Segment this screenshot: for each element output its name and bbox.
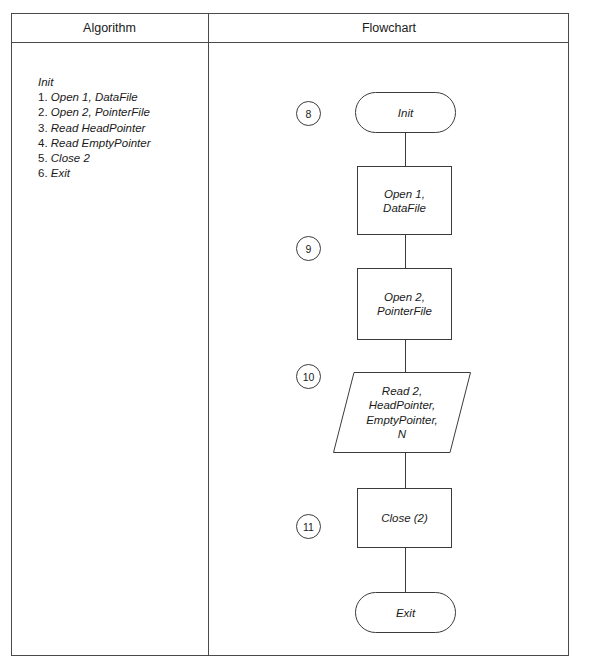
algorithm-step-number: 1. xyxy=(38,91,51,103)
step-number-11: 11 xyxy=(296,514,321,539)
node-read-line1: Read 2, xyxy=(382,385,422,397)
column-header-flowchart: Flowchart xyxy=(209,19,569,37)
node-close-label: Close (2) xyxy=(381,511,428,525)
algorithm-step-3: 3. Read HeadPointer xyxy=(38,121,203,136)
algorithm-step-4: 4. Read EmptyPointer xyxy=(38,136,203,151)
algorithm-step-text: Open 1, DataFile xyxy=(51,91,138,103)
node-read-label: Read 2, HeadPointer, EmptyPointer, N xyxy=(333,372,471,453)
connector-close-to-exit xyxy=(405,548,406,592)
algorithm-step-number: 5. xyxy=(38,152,51,164)
node-open1: Open 1, DataFile xyxy=(357,166,452,235)
algorithm-step-text: Exit xyxy=(51,167,70,179)
step-number-10: 10 xyxy=(296,364,321,389)
node-close: Close (2) xyxy=(357,488,452,548)
connector-read-to-close xyxy=(405,452,406,488)
algorithm-listing: Init 1. Open 1, DataFile 2. Open 2, Poin… xyxy=(38,75,203,181)
algorithm-step-5: 5. Close 2 xyxy=(38,151,203,166)
node-init: Init xyxy=(355,92,456,133)
algorithm-step-text: Read HeadPointer xyxy=(51,122,146,134)
flowchart-figure: Algorithm Flowchart Init 1. Open 1, Data… xyxy=(0,0,590,670)
algorithm-step-number: 3. xyxy=(38,122,51,134)
node-exit: Exit xyxy=(355,592,456,633)
node-read-line3: EmptyPointer, xyxy=(366,414,438,426)
algorithm-title: Init xyxy=(38,75,203,90)
step-number-9: 9 xyxy=(296,236,321,261)
node-read-line4: N xyxy=(398,428,406,440)
connector-open1-to-open2 xyxy=(405,235,406,268)
node-exit-label: Exit xyxy=(396,606,415,620)
column-header-algorithm: Algorithm xyxy=(11,19,208,37)
node-open1-line2: DataFile xyxy=(383,202,426,214)
node-open1-line1: Open 1, xyxy=(384,188,425,200)
algorithm-step-text: Open 2, PointerFile xyxy=(51,106,150,118)
header-divider-rule xyxy=(11,42,569,43)
node-read: Read 2, HeadPointer, EmptyPointer, N xyxy=(333,372,471,453)
node-open2: Open 2, PointerFile xyxy=(357,268,452,340)
algorithm-step-number: 4. xyxy=(38,137,51,149)
node-open2-line2: PointerFile xyxy=(377,305,432,317)
node-open2-line1: Open 2, xyxy=(384,291,425,303)
algorithm-step-6: 6. Exit xyxy=(38,166,203,181)
algorithm-step-number: 2. xyxy=(38,106,51,118)
connector-open2-to-read xyxy=(405,340,406,373)
node-open1-label: Open 1, DataFile xyxy=(383,187,426,215)
algorithm-step-1: 1. Open 1, DataFile xyxy=(38,90,203,105)
algorithm-step-2: 2. Open 2, PointerFile xyxy=(38,105,203,120)
node-init-label: Init xyxy=(398,106,413,120)
node-read-line2: HeadPointer, xyxy=(369,399,436,411)
step-number-8: 8 xyxy=(296,101,321,126)
algorithm-step-number: 6. xyxy=(38,167,51,179)
column-divider xyxy=(208,13,209,656)
node-open2-label: Open 2, PointerFile xyxy=(377,290,432,318)
algorithm-step-text: Close 2 xyxy=(51,152,90,164)
connector-init-to-open1 xyxy=(405,133,406,166)
algorithm-step-text: Read EmptyPointer xyxy=(51,137,151,149)
